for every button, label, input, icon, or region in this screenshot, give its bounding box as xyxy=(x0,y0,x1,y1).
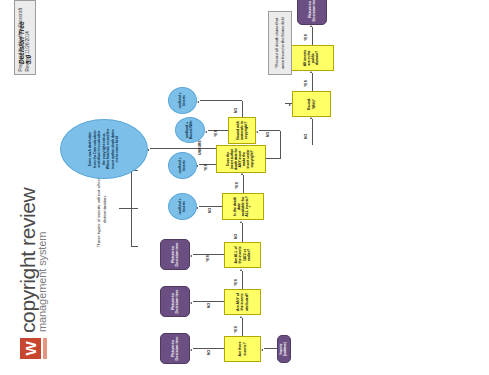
arrow-q6-yes xyxy=(205,131,207,133)
bracket-stem xyxy=(119,208,131,209)
edge-q1-yes xyxy=(242,318,243,336)
node-return-4[interactable]: Return to Decision tree xyxy=(297,0,327,25)
edge-q6-no-h xyxy=(242,101,243,117)
arrow-q6-down xyxy=(289,104,291,106)
edge-q5-no-v xyxy=(266,158,280,159)
edge-pd-yes xyxy=(312,27,313,45)
edge-label-boundwith-no: YES xyxy=(304,80,308,87)
edge-label-q3-yes: YES xyxy=(206,255,210,262)
node-q-any-attributed[interactable]: Are ANY of the inserts attributed? xyxy=(224,289,261,315)
edge-start-q1 xyxy=(264,348,277,349)
edge-label-q1-no: NO xyxy=(207,350,211,355)
node-start-inserts-subtree[interactable]: Inserts (subtree) xyxy=(277,335,291,363)
prepared-by-block: Prepared by Heather Shoecraft Revised 11… xyxy=(18,8,32,72)
node-ellipse-und-bound-with[interactable]: und/und + Bound With xyxy=(175,117,205,143)
node-q-death-date-all[interactable]: Is the death date available for ALL inse… xyxy=(222,193,264,220)
arrow-q5-no xyxy=(256,131,258,133)
arrow-pd-yes xyxy=(310,25,312,27)
node-ellipse-und-inserts-2[interactable]: und/und + Inserts xyxy=(168,152,197,179)
edge-label-q1-yes: YES xyxy=(234,326,238,333)
node-return-1[interactable]: Return to Decision tree xyxy=(160,333,190,364)
logo-underbar xyxy=(43,338,47,359)
edge-label-q5-yes: YES xyxy=(204,164,208,171)
edge-label-q6-no: NO xyxy=(234,108,238,113)
edge-label-pd-yes: YES xyxy=(304,34,308,41)
edge-to-bound-with xyxy=(312,119,313,145)
arrow-boundwith-no xyxy=(310,71,312,73)
node-ellipse-und-inserts-1[interactable]: und/und + Inserts xyxy=(168,193,197,220)
notes-record-death-dates: *Record all death dates that were found … xyxy=(268,11,292,75)
edge-label-q2-no: NO xyxy=(207,303,211,308)
arrow-to-bound-with xyxy=(310,117,312,119)
node-ellipse-date-calculator[interactable]: Enter each death date from the Date calc… xyxy=(60,119,148,179)
edge-label-q5-unsure: UNSURE xyxy=(198,140,202,155)
edge-label-q5-no: NO xyxy=(266,132,270,137)
edge-label-q2-yes: YES xyxy=(234,279,238,286)
arrow-q2-yes xyxy=(240,269,242,271)
arrow-q1-no xyxy=(190,349,192,351)
logo-letter: W xyxy=(23,341,38,355)
edge-q5-unsure xyxy=(150,148,216,149)
arrow-q3-yes xyxy=(190,255,192,257)
arrow-start-q1 xyxy=(261,349,263,351)
logo-w-icon: W xyxy=(20,338,41,359)
edge-q3-no xyxy=(242,223,243,242)
edge-label-q3-no: NO xyxy=(234,234,238,239)
edge-q6-yes xyxy=(208,130,228,131)
node-q-insert-author-copyright[interactable]: Does the insert author death date for AN… xyxy=(216,145,266,173)
edge-label-q4-no: NO xyxy=(208,208,212,213)
node-q-all-public-domain[interactable]: All inserts are in the public domain? xyxy=(288,45,334,71)
edge-q2-yes xyxy=(242,271,243,289)
revised-date-text: Revised 11/26/2014 xyxy=(25,8,32,72)
node-return-2[interactable]: Return to Decision tree xyxy=(160,286,190,317)
bracket-top xyxy=(131,171,132,247)
edge-q4-yes xyxy=(243,175,244,193)
page-subtitle: management system xyxy=(36,232,48,332)
edge-q5-no-h xyxy=(280,131,281,159)
node-q-all-1872[interactable]: Are ALL of the inserts 1872 or earlier? xyxy=(224,242,261,268)
arrow-q1-yes xyxy=(240,316,242,318)
node-return-3[interactable]: Return to Decision tree xyxy=(160,239,190,270)
arrow-q2-no xyxy=(190,302,192,304)
prepared-by-text: Prepared by Heather Shoecraft xyxy=(18,8,25,72)
edge-boundwith-no xyxy=(312,73,313,91)
edge-q6-no-v xyxy=(200,100,242,101)
node-q-bound-with[interactable]: Bound-With? xyxy=(292,91,331,117)
node-q-are-there-inserts[interactable]: Are there inserts? xyxy=(224,336,261,362)
edge-label-q4-yes: YES xyxy=(235,182,239,189)
node-q-bound-with-copyright[interactable]: Bound with materials in copyright? xyxy=(228,117,256,144)
arrow-q4-yes xyxy=(241,173,243,175)
edge-label-bound-no: NO xyxy=(304,134,308,139)
arrow-q3-no xyxy=(240,221,242,223)
decision-tree-poster: W copyright review management system Dec… xyxy=(0,0,489,375)
bracket-mid-tick xyxy=(131,208,138,209)
bracket-left-tick xyxy=(131,246,138,247)
node-ellipse-und-inserts-3[interactable]: und/und + Inserts xyxy=(168,87,197,114)
arrow-q6-no xyxy=(197,101,199,103)
edge-label-q6-yes: YES xyxy=(214,130,218,137)
